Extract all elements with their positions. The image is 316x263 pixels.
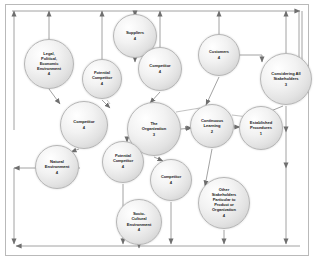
node-potential2[interactable]: Potential Competitor4 bbox=[102, 141, 144, 183]
node-number: 2 bbox=[211, 129, 213, 135]
node-continuous[interactable]: Continuous Learning2 bbox=[190, 104, 234, 148]
diagram-canvas: Legal, Political, Economic Environment4S… bbox=[0, 0, 316, 263]
node-stakeall[interactable]: Considering All Stakeholders3 bbox=[260, 53, 312, 105]
node-label: Legal, Political, Economic Environment bbox=[35, 51, 63, 71]
node-natural[interactable]: Natural Environment4 bbox=[35, 145, 79, 189]
node-number: 4 bbox=[134, 36, 136, 42]
node-customers[interactable]: Customers4 bbox=[198, 34, 240, 76]
node-competitor2[interactable]: Competitor4 bbox=[60, 101, 108, 149]
node-label: Competitor bbox=[159, 175, 183, 180]
node-number: 4 bbox=[223, 213, 225, 219]
node-number: 4 bbox=[122, 164, 124, 170]
node-label: Socio- Cultural Environment bbox=[125, 211, 153, 227]
node-number: 3 bbox=[285, 82, 287, 88]
node-number: 4 bbox=[218, 55, 220, 61]
node-otherstake[interactable]: Other Stakeholders Particular to Product… bbox=[198, 177, 250, 229]
node-label: Competitor bbox=[71, 119, 96, 124]
node-competitor1[interactable]: Competitor4 bbox=[138, 47, 182, 91]
node-number: 4 bbox=[138, 227, 140, 233]
node-label: Customers bbox=[207, 50, 231, 55]
node-label: Potential Competitor bbox=[111, 154, 135, 164]
node-number: 4 bbox=[101, 81, 103, 87]
node-label: Continuous Learning bbox=[199, 118, 225, 128]
node-label: Established Procedures bbox=[248, 120, 274, 130]
node-number: 4 bbox=[159, 69, 161, 75]
node-number: 4 bbox=[48, 71, 50, 77]
node-label: Natural Environment bbox=[43, 159, 71, 169]
node-label: Considering All Stakeholders bbox=[269, 71, 302, 81]
node-label: Competitor bbox=[147, 63, 172, 68]
node-number: 4 bbox=[83, 125, 85, 131]
node-established[interactable]: Established Procedures1 bbox=[239, 106, 283, 150]
node-label: The Organization bbox=[140, 121, 168, 131]
node-number: 3 bbox=[153, 132, 155, 138]
node-label: Suppliers bbox=[124, 30, 146, 35]
node-label: Other Stakeholders Particular to Product… bbox=[210, 187, 239, 212]
node-legal[interactable]: Legal, Political, Economic Environment4 bbox=[24, 39, 74, 89]
node-number: 4 bbox=[170, 180, 172, 186]
node-competitor3[interactable]: Competitor4 bbox=[150, 159, 192, 201]
node-socio[interactable]: Socio- Cultural Environment4 bbox=[116, 199, 162, 245]
node-potential1[interactable]: Potential Competitor4 bbox=[82, 59, 122, 99]
node-number: 1 bbox=[260, 131, 262, 137]
node-number: 4 bbox=[56, 170, 58, 176]
node-label: Potential Competitor bbox=[90, 71, 114, 81]
